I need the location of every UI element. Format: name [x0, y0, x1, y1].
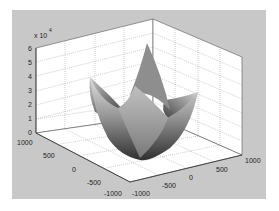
surface-plot: 0 1 2 3 4 5 6 x 10 4 1000 500 0 -500 -10… [0, 0, 279, 211]
svg-text:5: 5 [28, 59, 32, 66]
svg-text:3: 3 [28, 87, 32, 94]
z-multiplier: x 10 [34, 32, 47, 39]
svg-text:1000: 1000 [17, 139, 33, 146]
svg-text:500: 500 [43, 152, 55, 159]
svg-text:4: 4 [28, 73, 32, 80]
svg-text:1000: 1000 [245, 157, 261, 164]
z-exponent: 4 [49, 27, 52, 33]
svg-text:2: 2 [28, 101, 32, 108]
svg-text:-500: -500 [87, 179, 101, 186]
svg-text:-500: -500 [162, 182, 176, 189]
svg-text:0: 0 [189, 174, 193, 181]
svg-text:-1000: -1000 [104, 190, 122, 197]
svg-text:0: 0 [28, 129, 32, 136]
svg-text:1: 1 [28, 115, 32, 122]
figure-window: 0 1 2 3 4 5 6 x 10 4 1000 500 0 -500 -10… [0, 0, 279, 211]
svg-text:-1000: -1000 [132, 190, 150, 197]
svg-text:6: 6 [28, 45, 32, 52]
svg-text:500: 500 [216, 166, 228, 173]
svg-text:0: 0 [72, 166, 76, 173]
